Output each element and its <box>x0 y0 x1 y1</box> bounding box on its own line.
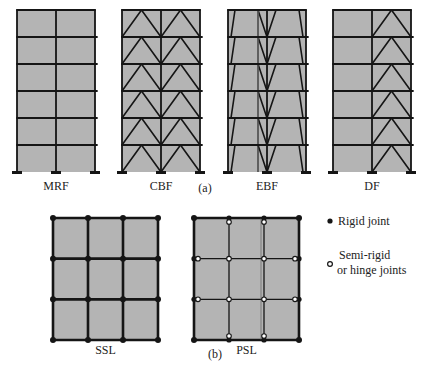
plan-panel <box>194 218 299 340</box>
hinge-joint <box>227 334 232 339</box>
rigid-joint <box>50 296 56 302</box>
rigid-joint <box>191 215 197 221</box>
rigid-joint-icon <box>327 218 332 223</box>
frame-cbf: CBF <box>117 10 205 193</box>
rigid-joint <box>120 296 126 302</box>
plan-panel <box>53 218 158 340</box>
plan-ssl: SSL <box>50 215 161 357</box>
rigid-joint <box>155 256 161 262</box>
rigid-joint <box>85 296 91 302</box>
rigid-joint <box>85 215 91 221</box>
rigid-joint <box>296 337 302 343</box>
legend: Rigid joint Semi-rigid or hinge joints <box>327 214 406 277</box>
rigid-joint <box>50 215 56 221</box>
support <box>51 171 61 174</box>
rigid-joint <box>296 215 302 221</box>
structural-systems-figure: MRFCBFEBFDF (a) SSLPSL (b) Rigid joint S… <box>0 0 426 378</box>
rigid-joint <box>155 215 161 221</box>
hinge-joint <box>262 256 267 261</box>
support <box>301 171 311 174</box>
part-b-label: (b) <box>208 347 222 361</box>
frame-label: EBF <box>256 179 278 193</box>
hinge-joint <box>227 220 232 225</box>
frame-mrf: MRF <box>12 10 100 193</box>
support <box>117 171 127 174</box>
hinge-joint <box>196 256 201 261</box>
rigid-joint <box>155 337 161 343</box>
support <box>195 171 205 174</box>
hinge-joint-icon <box>328 262 333 267</box>
hinge-joint <box>227 256 232 261</box>
plan-label: SSL <box>95 343 116 357</box>
rigid-joint <box>50 337 56 343</box>
rigid-joint <box>120 256 126 262</box>
part-a-label: (a) <box>198 181 211 195</box>
plan-label: PSL <box>236 343 257 357</box>
support <box>328 171 338 174</box>
hinge-joint <box>262 297 267 302</box>
support <box>223 171 233 174</box>
rigid-joint <box>50 256 56 262</box>
frame-label: MRF <box>43 179 69 193</box>
rigid-joint <box>191 337 197 343</box>
legend-rigid-label: Rigid joint <box>338 214 390 228</box>
part-b-plans: SSLPSL <box>50 215 302 357</box>
rigid-joint <box>85 337 91 343</box>
legend-hinge-label-line1: Semi-rigid <box>339 248 390 262</box>
rigid-joint <box>155 296 161 302</box>
plan-psl: PSL <box>191 215 302 357</box>
legend-hinge-label-line2: or hinge joints <box>337 263 407 277</box>
hinge-joint <box>227 297 232 302</box>
hinge-joint <box>293 256 298 261</box>
hinge-joint <box>262 334 267 339</box>
support <box>12 171 22 174</box>
hinge-joint <box>293 297 298 302</box>
frame-df: DF <box>328 10 416 193</box>
rigid-joint <box>85 256 91 262</box>
hinge-joint <box>196 297 201 302</box>
support <box>406 171 416 174</box>
support <box>367 171 377 174</box>
support <box>156 171 166 174</box>
hinge-joint <box>262 220 267 225</box>
rigid-joint <box>120 215 126 221</box>
rigid-joint <box>120 337 126 343</box>
frame-label: DF <box>364 179 380 193</box>
frame-label: CBF <box>150 179 173 193</box>
support <box>90 171 100 174</box>
part-a-frames: MRFCBFEBFDF <box>12 10 416 193</box>
frame-ebf: EBF <box>223 10 311 193</box>
support <box>262 171 272 174</box>
